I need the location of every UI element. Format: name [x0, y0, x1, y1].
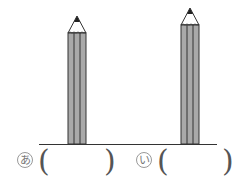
open-paren-b: ( [157, 146, 169, 176]
label-a: あ [17, 152, 33, 168]
open-paren-a: ( [38, 146, 50, 176]
pencil-a [66, 14, 88, 146]
baseline [39, 144, 217, 145]
close-paren-b: ) [222, 146, 232, 176]
pencil-b [179, 6, 201, 146]
answer-field-a[interactable] [52, 150, 104, 176]
label-b: い [136, 152, 152, 168]
close-paren-a: ) [104, 146, 116, 176]
answer-field-b[interactable] [171, 150, 221, 176]
